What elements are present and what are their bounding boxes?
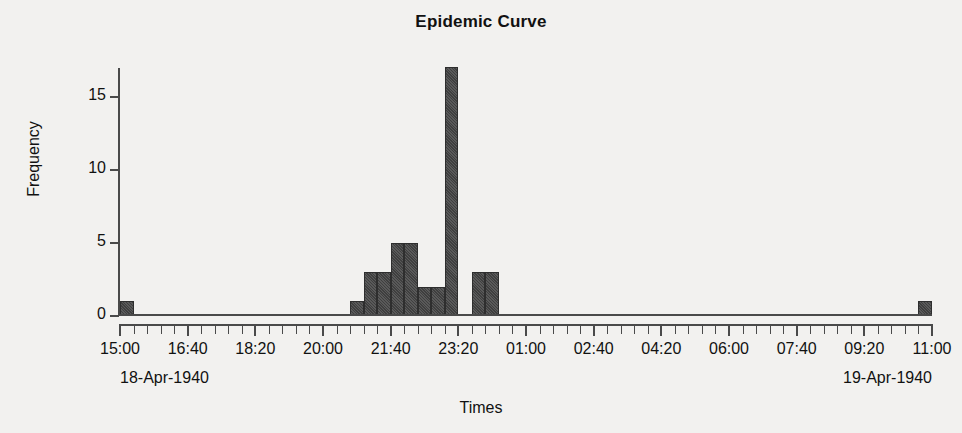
y-axis-tick-label: 0: [66, 305, 106, 323]
x-axis-minor-tick: [824, 324, 825, 334]
x-axis-minor-tick: [174, 324, 175, 334]
histogram-bar: [431, 287, 445, 316]
x-axis-major-tick: [863, 324, 865, 336]
plot-baseline: [120, 314, 932, 316]
x-axis-minor-tick: [296, 324, 297, 334]
y-axis-label: Frequency: [25, 59, 43, 259]
x-axis-tick-label: 01:00: [506, 340, 546, 358]
x-axis-tick-label: 09:20: [844, 340, 884, 358]
x-axis-tick-label: 16:40: [168, 340, 208, 358]
x-axis-major-tick: [660, 324, 662, 336]
x-axis-minor-tick: [567, 324, 568, 334]
x-axis-minor-tick: [891, 324, 892, 334]
x-axis-minor-tick: [512, 324, 513, 334]
x-axis-minor-tick: [215, 324, 216, 334]
y-axis-tick: [110, 96, 119, 98]
x-axis-tick-label: 20:00: [303, 340, 343, 358]
x-axis-minor-tick: [269, 324, 270, 334]
x-axis-minor-tick: [147, 324, 148, 334]
x-axis-major-tick: [728, 324, 730, 336]
y-axis-tick: [110, 169, 119, 171]
x-axis-minor-tick: [621, 324, 622, 334]
x-axis-minor-tick: [607, 324, 608, 334]
x-axis-minor-tick: [675, 324, 676, 334]
x-axis-minor-tick: [810, 324, 811, 334]
x-axis-major-tick: [457, 324, 459, 336]
x-axis-tick-label: 02:40: [574, 340, 614, 358]
x-axis-minor-tick: [282, 324, 283, 334]
x-axis-label: Times: [0, 399, 962, 417]
x-axis-minor-tick: [472, 324, 473, 334]
x-axis-major-tick: [187, 324, 189, 336]
x-axis-minor-tick: [783, 324, 784, 334]
x-axis-tick-label: 07:40: [777, 340, 817, 358]
x-axis-minor-tick: [418, 324, 419, 334]
x-axis-minor-tick: [134, 324, 135, 334]
x-axis-minor-tick: [242, 324, 243, 334]
x-axis-end-date-label: 19-Apr-1940: [843, 369, 932, 387]
x-axis-minor-tick: [350, 324, 351, 334]
x-axis-tick-label: 11:00: [913, 340, 952, 358]
x-axis-tick-label: 23:20: [438, 340, 478, 358]
plot-area: [120, 60, 932, 316]
histogram-bar: [391, 243, 405, 316]
y-axis-tick: [110, 242, 119, 244]
histogram-bar: [445, 67, 459, 316]
histogram-bar: [485, 272, 499, 316]
histogram-bar: [377, 272, 391, 316]
x-axis-minor-tick: [377, 324, 378, 334]
x-axis-minor-tick: [715, 324, 716, 334]
x-axis-tick-label: 21:40: [371, 340, 411, 358]
histogram-bar: [472, 272, 486, 316]
x-axis-minor-tick: [851, 324, 852, 334]
x-axis-minor-tick: [540, 324, 541, 334]
x-axis-minor-tick: [553, 324, 554, 334]
x-axis-minor-tick: [837, 324, 838, 334]
y-axis-tick-label: 15: [66, 86, 106, 104]
x-axis-minor-tick: [756, 324, 757, 334]
y-axis-tick-label: 5: [66, 232, 106, 250]
x-axis-minor-tick: [364, 324, 365, 334]
x-axis-minor-tick: [431, 324, 432, 334]
x-axis-minor-tick: [499, 324, 500, 334]
y-axis-tick: [110, 315, 119, 317]
x-axis-minor-tick: [688, 324, 689, 334]
x-axis-major-tick: [931, 324, 933, 336]
x-axis-minor-tick: [905, 324, 906, 334]
x-axis-minor-tick: [445, 324, 446, 334]
x-axis-major-tick: [593, 324, 595, 336]
x-axis-minor-tick: [743, 324, 744, 334]
x-axis-major-tick: [254, 324, 256, 336]
x-axis-tick-label: 18:20: [235, 340, 275, 358]
histogram-bar: [404, 243, 418, 316]
x-axis-minor-tick: [309, 324, 310, 334]
x-axis-major-tick: [525, 324, 527, 336]
x-axis-minor-tick: [918, 324, 919, 334]
x-axis-minor-tick: [201, 324, 202, 334]
x-axis-major-tick: [796, 324, 798, 336]
histogram-bar: [364, 272, 378, 316]
x-axis-minor-tick: [161, 324, 162, 334]
page-title: Epidemic Curve: [0, 12, 962, 32]
x-axis-minor-tick: [770, 324, 771, 334]
x-axis-tick-label: 04:20: [641, 340, 681, 358]
x-axis-minor-tick: [228, 324, 229, 334]
x-axis-minor-tick: [634, 324, 635, 334]
x-axis-minor-tick: [485, 324, 486, 334]
x-axis-minor-tick: [878, 324, 879, 334]
y-axis-tick-label: 10: [66, 159, 106, 177]
x-axis-major-tick: [119, 324, 121, 336]
x-axis-major-tick: [322, 324, 324, 336]
x-axis-minor-tick: [702, 324, 703, 334]
x-axis-minor-tick: [648, 324, 649, 334]
x-axis-minor-tick: [404, 324, 405, 334]
x-axis-tick-label: 06:00: [709, 340, 749, 358]
x-axis-tick-label: 15:00: [100, 340, 140, 358]
x-axis-start-date-label: 18-Apr-1940: [120, 369, 209, 387]
histogram-bar: [418, 287, 432, 316]
x-axis-minor-tick: [580, 324, 581, 334]
x-axis-major-tick: [390, 324, 392, 336]
chart-canvas: Epidemic Curve Frequency 051015 15:0016:…: [0, 0, 962, 433]
x-axis-minor-tick: [337, 324, 338, 334]
